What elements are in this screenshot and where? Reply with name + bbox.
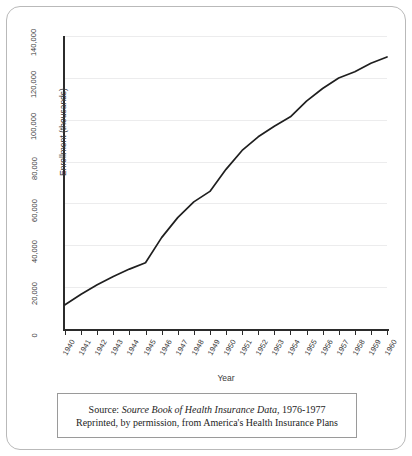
x-tick-1944 [129, 329, 130, 335]
caption-source-years: , 1976-1977 [277, 404, 325, 415]
y-tick-label-20000: 20,000 [11, 282, 57, 292]
x-tick-1957 [339, 329, 340, 335]
x-tick-1958 [355, 329, 356, 335]
x-tick-1940 [65, 329, 66, 335]
x-tick-1955 [307, 329, 308, 335]
y-tick-label-100000: 100,000 [11, 115, 57, 125]
chart-area: 140,000 120,000 100,000 80,000 60,000 40… [7, 7, 407, 387]
y-tick-label-140000: 140,000 [11, 31, 57, 41]
x-tick-1946 [162, 329, 163, 335]
source-caption-box: Source: Source Book of Health Insurance … [57, 393, 357, 438]
x-axis-title: Year [63, 373, 389, 383]
series-line-enrollment [63, 36, 389, 330]
x-tick-1942 [97, 329, 98, 335]
y-tick-label-80000: 80,000 [11, 157, 57, 167]
y-tick-label-120000: 120,000 [11, 73, 57, 83]
y-tick-label-40000: 40,000 [11, 240, 57, 250]
figure-frame: 140,000 120,000 100,000 80,000 60,000 40… [6, 6, 406, 450]
caption-line-2: Reprinted, by permission, from America's… [76, 417, 338, 428]
x-tick-1960 [387, 329, 388, 335]
caption-source-title: Source Book of Health Insurance Data [122, 404, 277, 415]
x-tick-1959 [371, 329, 372, 335]
x-tick-1949 [210, 329, 211, 335]
x-tick-1948 [194, 329, 195, 335]
caption-line-1: Source: Source Book of Health Insurance … [89, 404, 326, 415]
y-tick-label-0: 0 [11, 324, 57, 334]
caption-source-prefix: Source: [89, 404, 122, 415]
y-tick-label-60000: 60,000 [11, 199, 57, 209]
x-tick-1945 [146, 329, 147, 335]
x-tick-1956 [323, 329, 324, 335]
x-tick-1947 [178, 329, 179, 335]
x-tick-1951 [242, 329, 243, 335]
x-tick-1954 [290, 329, 291, 335]
x-tick-1943 [113, 329, 114, 335]
x-tick-1953 [274, 329, 275, 335]
x-tick-1941 [81, 329, 82, 335]
x-tick-1952 [258, 329, 259, 335]
x-tick-1950 [226, 329, 227, 335]
